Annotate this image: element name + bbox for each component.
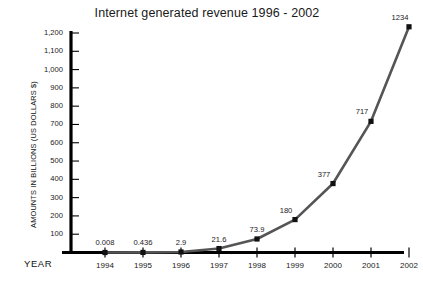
data-point-marker xyxy=(102,250,107,255)
data-point-marker xyxy=(292,217,297,222)
data-point-label: 1234 xyxy=(377,13,423,22)
y-tick-label: 300 xyxy=(19,193,63,202)
y-tick-label: 800 xyxy=(19,101,63,110)
data-point-label: 21.6 xyxy=(196,235,242,244)
data-point-marker xyxy=(216,246,221,251)
x-tick-label: 1996 xyxy=(161,261,201,270)
x-tick-label: 1998 xyxy=(237,261,277,270)
x-tick-label: 1997 xyxy=(199,261,239,270)
data-point-label: 73.9 xyxy=(234,225,280,234)
revenue-line-series xyxy=(105,27,409,253)
y-tick-label: 400 xyxy=(19,174,63,183)
y-tick-label: 1,100 xyxy=(19,46,63,55)
data-point-marker xyxy=(368,119,373,124)
data-point-marker xyxy=(406,24,411,29)
y-tick-label: 1,000 xyxy=(19,65,63,74)
y-tick-label: 1,200 xyxy=(19,28,63,37)
y-tick-label: 600 xyxy=(19,138,63,147)
y-tick-label: 900 xyxy=(19,83,63,92)
data-point-label: 717 xyxy=(339,107,385,116)
data-point-label: 180 xyxy=(263,206,309,215)
data-point-marker xyxy=(140,250,145,255)
y-tick-label: 500 xyxy=(19,156,63,165)
y-tick-label: 100 xyxy=(19,229,63,238)
data-point-markers xyxy=(102,24,411,255)
x-tick-label: 2001 xyxy=(351,261,391,270)
y-tick-label: 200 xyxy=(19,211,63,220)
x-tick-label: 1995 xyxy=(123,261,163,270)
x-tick-label: 1994 xyxy=(85,261,125,270)
data-point-marker xyxy=(254,236,259,241)
data-point-label: 377 xyxy=(301,170,347,179)
data-point-marker xyxy=(178,249,183,254)
x-tick-label: 1999 xyxy=(275,261,315,270)
x-tick-label: 2000 xyxy=(313,261,353,270)
x-tick-label: 2002 xyxy=(389,261,423,270)
y-tick-label: 700 xyxy=(19,119,63,128)
data-point-marker xyxy=(330,181,335,186)
